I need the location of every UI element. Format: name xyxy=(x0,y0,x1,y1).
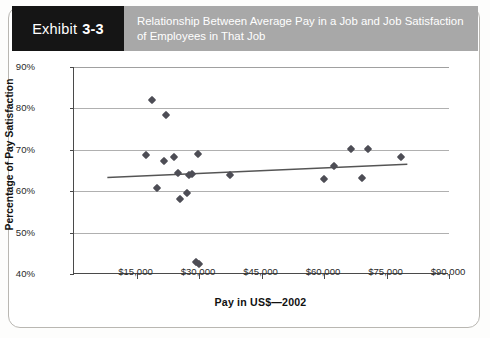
y-tick-label: 90% xyxy=(0,61,35,72)
y-tick-mark xyxy=(70,108,74,109)
exhibit-title: Relationship Between Average Pay in a Jo… xyxy=(137,14,470,43)
x-tick-label: $60,000 xyxy=(288,266,358,277)
x-tick-label: $75,000 xyxy=(351,266,421,277)
y-tick-label: 60% xyxy=(0,185,35,196)
exhibit-header: Exhibit 3-3 Relationship Between Average… xyxy=(12,6,478,51)
gridline xyxy=(74,67,449,68)
exhibit-number: 3-3 xyxy=(82,21,104,37)
y-tick-mark xyxy=(70,233,74,234)
x-tick-label: $90,000 xyxy=(413,266,483,277)
y-tick-mark xyxy=(70,67,74,68)
y-tick-mark xyxy=(70,150,74,151)
exhibit-word: Exhibit xyxy=(32,21,77,37)
gridline xyxy=(74,191,449,192)
x-axis-label: Pay in US$—2002 xyxy=(73,296,448,308)
x-tick-label: $30,000 xyxy=(163,266,233,277)
gridline xyxy=(74,108,449,109)
gridline xyxy=(74,150,449,151)
x-tick-label: $15,000 xyxy=(101,266,171,277)
y-tick-label: 40% xyxy=(0,268,35,279)
exhibit-figure: Exhibit 3-3 Relationship Between Average… xyxy=(0,0,490,338)
x-tick-label: $45,000 xyxy=(226,266,296,277)
exhibit-title-band: Relationship Between Average Pay in a Jo… xyxy=(124,6,478,51)
plot-area xyxy=(73,67,448,274)
gridline xyxy=(74,233,449,234)
y-tick-label: 50% xyxy=(0,227,35,238)
y-tick-mark xyxy=(70,191,74,192)
scatter-chart: Percentage of Pay Satisfaction Pay in US… xyxy=(0,51,490,338)
y-tick-label: 80% xyxy=(0,102,35,113)
exhibit-tab: Exhibit 3-3 xyxy=(12,6,124,51)
trendline xyxy=(74,67,449,274)
y-tick-mark xyxy=(70,274,74,275)
y-tick-label: 70% xyxy=(0,144,35,155)
